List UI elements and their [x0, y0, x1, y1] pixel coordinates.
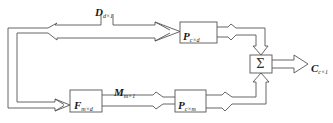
block-p-cxd-label: Pc×d — [183, 27, 199, 43]
sum-symbol: Σ — [256, 58, 264, 70]
pcm-to-sum-outer — [206, 73, 261, 97]
block-p-cxm-label: Pc×m — [178, 96, 196, 112]
pcd-to-sum-outer — [217, 24, 268, 55]
pcm-to-sum-inner — [206, 73, 269, 111]
pcd-to-sum-inner — [217, 35, 261, 55]
f-to-pcm-outer — [102, 92, 175, 97]
top-channel-right-inner — [101, 33, 170, 41]
f-to-pcm-inner — [102, 104, 175, 109]
intermediate-label-m: Mm×1 — [114, 83, 135, 99]
sum-to-output-arrow — [272, 55, 308, 73]
block-f-mxd-label: Fm×d — [74, 96, 93, 112]
block-diagram-canvas — [0, 0, 333, 123]
input-label-d: Dd×1 — [95, 3, 113, 19]
arrow-into-pcd — [155, 22, 180, 41]
top-channel-right-outer — [113, 22, 170, 30]
output-label-c: Cc×1 — [311, 59, 328, 75]
